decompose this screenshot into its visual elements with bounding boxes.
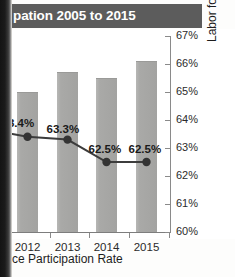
y-tick-label: 65% [176,85,198,97]
y-tick-label: 61% [176,197,198,209]
data-label-2013: 63.3% [47,123,80,135]
x-tick-mark [129,233,130,238]
y-tick-mark [165,204,171,205]
y-tick-mark [165,232,171,233]
y-tick-label: 66% [176,57,198,69]
y-tick-mark [165,148,171,149]
y-tick-label: 67% [176,29,198,41]
bar-2013 [57,72,78,233]
bar-2012 [17,92,38,233]
y-tick-label: 60% [176,225,198,237]
x-axis-line [9,232,171,233]
x-tick-label-2015: 2015 [127,241,166,253]
data-label-2015: 62.5% [129,143,162,155]
x-tick-mark [89,233,90,238]
bar-2014 [96,78,117,233]
y-tick-mark [165,92,171,93]
data-label-2014: 62.5% [89,143,122,155]
y-tick-label: 64% [176,113,198,125]
y-tick-mark [165,64,171,65]
chart-title: pation 2005 to 2015 [13,8,203,23]
y-tick-label: 62% [176,169,198,181]
y-tick-mark [165,36,171,37]
y-axis-title: Labor force participation rate [205,0,219,42]
y-tick-mark [165,120,171,121]
chart-caption: ce Participation Rate [12,252,123,266]
y-tick-label: 63% [176,141,198,153]
plot-area [9,31,170,232]
page-edge-shadow [0,0,11,277]
y-tick-mark [165,176,171,177]
x-tick-mark [50,233,51,238]
x-tick-mark [169,233,170,238]
